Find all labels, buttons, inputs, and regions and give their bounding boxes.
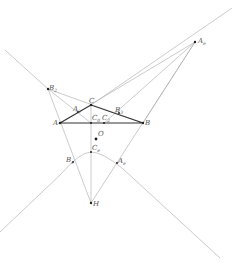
- label-ce: Ce: [92, 144, 100, 153]
- label-ae-lower: Ae: [117, 157, 126, 166]
- line-through-ae: [91, 8, 232, 105]
- label-b2: B2: [48, 84, 57, 93]
- label-a: A: [52, 119, 58, 127]
- label-o: O: [98, 130, 104, 138]
- point-b: [142, 122, 144, 124]
- curve-hyperbola: [0, 152, 220, 258]
- point-ae: [194, 41, 196, 43]
- point-c2: [103, 122, 105, 124]
- label-be: Be: [65, 156, 74, 165]
- label-a2: A2: [72, 105, 81, 114]
- line-upper-left: [5, 50, 48, 89]
- point-c0: [90, 122, 92, 124]
- label-b: B: [144, 119, 150, 127]
- label-c: C: [89, 97, 95, 105]
- label-c2: C2: [102, 114, 110, 123]
- point-o: [95, 138, 98, 141]
- label-h: H: [92, 200, 100, 208]
- point-h: [90, 202, 92, 204]
- point-a: [59, 122, 61, 124]
- geometry-diagram: A B C Ae B2 A2 B3 C0 C2 O Ce Be Ae H: [0, 0, 243, 268]
- label-ae: Ae: [197, 37, 206, 46]
- label-c0: C0: [92, 114, 100, 123]
